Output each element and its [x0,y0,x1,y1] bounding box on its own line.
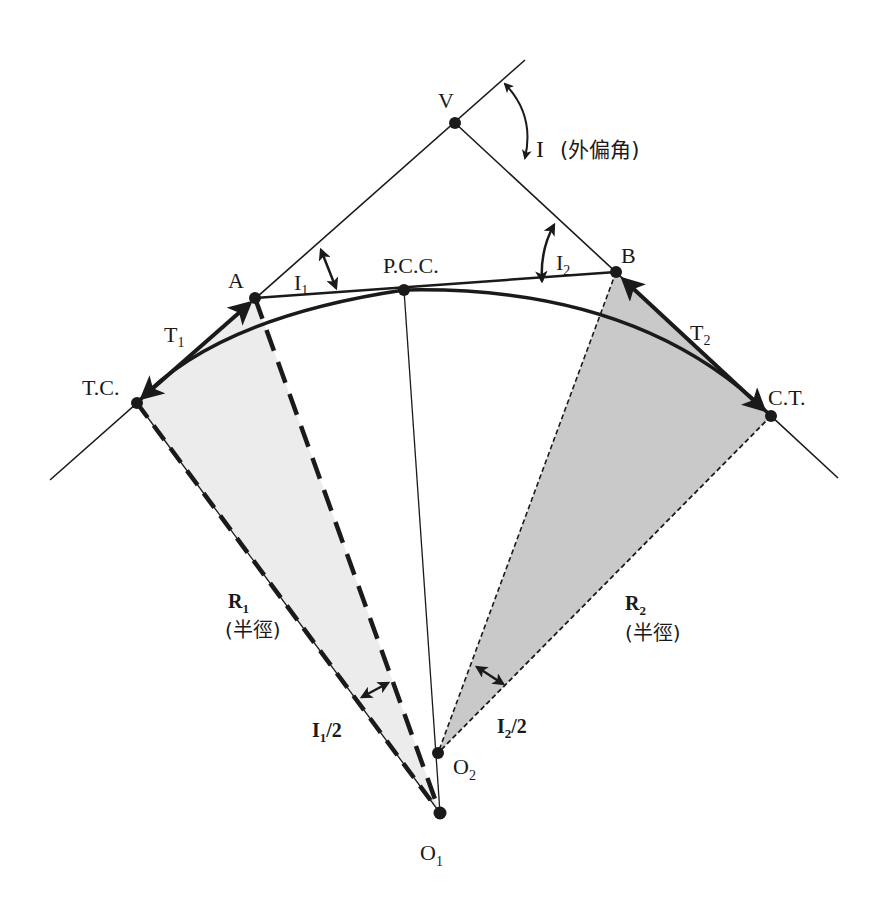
label-o1: O1 [420,840,443,869]
label-r2: R2 [625,592,646,618]
label-a: A [228,268,244,293]
point-v [449,117,461,129]
point-pcc [398,284,410,296]
label-i1-half: I1/2 [312,719,342,745]
point-tc [131,397,143,409]
label-tc: T.C. [82,375,119,400]
label-ct: C.T. [768,385,805,410]
label-i2-half: I2/2 [497,715,527,741]
point-o1 [434,807,447,820]
point-a [249,292,261,304]
label-i2: I2 [556,250,570,278]
i1-angle-arrow [321,250,336,288]
label-r2-note: (半徑) [625,621,681,645]
point-ct [765,410,777,422]
label-i1: I1 [294,270,308,298]
label-v: V [438,88,454,113]
sector-2-fill [438,272,771,753]
i2-angle-arrow [542,225,554,281]
label-r1: R1 [228,590,249,616]
label-t2: T2 [690,320,710,348]
label-r1-note: (半徑) [225,618,281,642]
label-i: I [536,136,544,162]
label-pcc: P.C.C. [383,253,439,278]
label-o2: O2 [453,754,476,783]
sector-1-fill [137,298,440,813]
label-b: B [621,243,636,268]
compound-curve-diagram: V I (外偏角) A P.C.C. B T.C. C.T. I1 I2 T1 … [0,0,870,908]
label-i-note: (外偏角) [560,138,639,162]
label-t1: T1 [164,322,184,350]
point-o2 [432,747,444,759]
i-angle-arc [505,84,528,158]
